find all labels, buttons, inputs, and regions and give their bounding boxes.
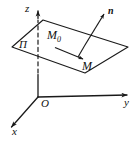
x-axis-label: x xyxy=(12,126,17,137)
point-m0-base: M xyxy=(47,28,57,42)
normal-vector-below-plane xyxy=(78,45,85,57)
y-axis-line xyxy=(38,95,127,97)
plane-parallelogram xyxy=(12,20,128,73)
point-m0-subscript: 0 xyxy=(57,35,61,44)
z-axis-label: z xyxy=(25,3,29,14)
figure-canvas xyxy=(0,0,140,142)
normal-vector-arrow xyxy=(85,14,104,45)
displacement-vector-m0-to-m xyxy=(55,48,83,60)
origin-label: O xyxy=(41,98,49,109)
point-m-label: M xyxy=(82,60,92,72)
plane-label: П xyxy=(19,39,27,50)
normal-vector-label: n xyxy=(108,6,114,16)
x-axis-line xyxy=(12,97,39,127)
y-axis-label: y xyxy=(124,97,129,108)
point-m0-label: M0 xyxy=(47,29,61,44)
plane-normal-vector-figure: z n П M0 M O y x xyxy=(0,0,140,142)
